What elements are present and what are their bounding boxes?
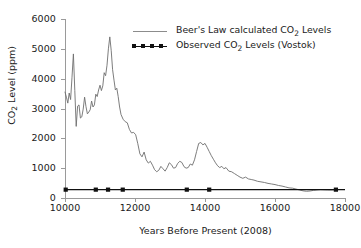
x-tick-label-14000: 14000 [179, 203, 231, 213]
observed-data-point [207, 188, 211, 192]
y-axis-title-post: Level (ppm) [6, 46, 17, 106]
observed-data-point [106, 188, 110, 192]
legend-label-beers-law: Beer's Law calculated CO2 Levels [176, 24, 331, 39]
y-tick-label-1000: 1000 [16, 163, 56, 173]
y-tick-label-6000: 6000 [16, 14, 56, 24]
observed-data-point [94, 188, 98, 192]
chart-figure: CO2 Level (ppm) 6000 5000 4000 3000 2000… [0, 0, 361, 248]
y-tick-4000 [61, 79, 65, 80]
y-tick-label-3000: 3000 [16, 104, 56, 114]
legend-label-observed: Observed CO2 Levels (Vostok) [176, 39, 316, 54]
y-axis-title-pre: CO [6, 111, 17, 125]
x-tick-label-10000: 10000 [39, 203, 91, 213]
chart-legend: Beer's Law calculated CO2 Levels Observe… [131, 24, 331, 54]
y-tick-6000 [61, 19, 65, 20]
y-tick-1000 [61, 168, 65, 169]
x-tick-label-18000: 18000 [319, 203, 361, 213]
y-tick-2000 [61, 138, 65, 139]
y-tick-5000 [61, 49, 65, 50]
observed-data-point [185, 188, 189, 192]
legend-item-observed: Observed CO2 Levels (Vostok) [131, 39, 331, 54]
y-tick-3000 [61, 109, 65, 110]
y-axis-line [65, 19, 66, 198]
legend-marker-line-icon [131, 41, 169, 52]
y-tick-label-4000: 4000 [16, 74, 56, 84]
observed-data-point [334, 188, 338, 192]
x-axis-title: Years Before Present (2008) [65, 225, 346, 236]
y-tick-label-5000: 5000 [16, 44, 56, 54]
legend-line-icon [131, 26, 169, 37]
x-tick-label-12000: 12000 [109, 203, 161, 213]
series-observed-vostok-markers [64, 188, 338, 192]
x-tick-label-16000: 16000 [249, 203, 301, 213]
y-axis-title: CO2 Level (ppm) [6, 20, 21, 150]
observed-data-point [121, 188, 125, 192]
legend-item-beers-law: Beer's Law calculated CO2 Levels [131, 24, 331, 39]
series-beers-law-line [65, 37, 338, 191]
y-tick-label-2000: 2000 [16, 133, 56, 143]
